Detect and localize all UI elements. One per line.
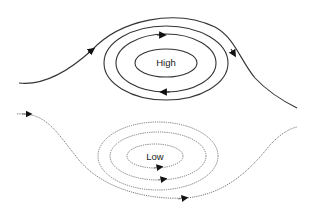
flow-arrow-icon: [158, 179, 164, 180]
low-label: Low: [146, 151, 164, 162]
pressure-diagram: High Low: [0, 0, 317, 215]
flow-arrow-icon: [88, 50, 92, 53]
low-pressure-system: Low: [17, 114, 297, 199]
diagram-canvas: High Low: [0, 0, 317, 215]
high-pressure-system: High: [19, 18, 297, 108]
flow-arrow-icon: [231, 49, 234, 54]
high-label: High: [156, 57, 176, 68]
flow-arrow-icon: [154, 167, 160, 168]
